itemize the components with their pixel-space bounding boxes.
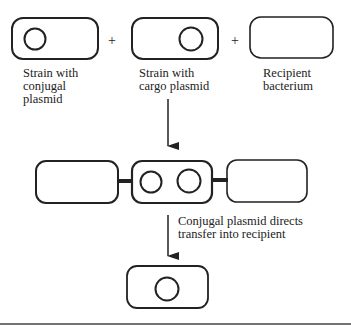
mating-cell-left <box>36 161 118 203</box>
conjugal-plasmid-icon <box>25 29 46 50</box>
conjugal-plasmid-icon <box>141 172 162 193</box>
donor-cell-cargo <box>132 18 218 59</box>
mating-complex <box>36 160 307 203</box>
label-conjugal-strain: Strain with conjugal plasmid <box>23 67 78 106</box>
recipient-cell <box>250 17 333 58</box>
cargo-plasmid-icon <box>180 28 203 51</box>
diagram-canvas <box>0 0 351 331</box>
conjugation-bridge-right <box>211 178 228 182</box>
transconjugant-cell <box>127 266 208 308</box>
caption-line: transfer into recipient <box>178 228 303 241</box>
label-line: plasmid <box>23 93 78 106</box>
cargo-plasmid-icon <box>156 278 179 301</box>
label-line: bacterium <box>263 80 313 93</box>
plus-operator: + <box>231 34 239 47</box>
transfer-caption: Conjugal plasmid directs transfer into r… <box>178 215 303 241</box>
cargo-plasmid-icon <box>178 170 201 193</box>
plus-operator: + <box>108 34 116 47</box>
conjugation-bridge-left <box>117 179 133 183</box>
label-cargo-strain: Strain with cargo plasmid <box>139 67 209 93</box>
label-line: cargo plasmid <box>139 80 209 93</box>
mating-cell-right <box>227 160 307 202</box>
donor-cell-conjugal <box>12 18 98 59</box>
label-recipient: Recipient bacterium <box>263 67 313 93</box>
